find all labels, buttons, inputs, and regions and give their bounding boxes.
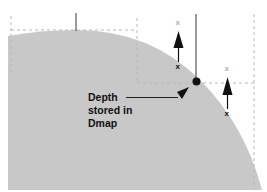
depth-arrow-1: x x <box>174 18 184 71</box>
depth-arrow-2: x x <box>223 64 233 118</box>
depth-map-diagram: x x x x Depth stored in Dmap <box>0 0 267 192</box>
sample-point-dot <box>193 78 201 86</box>
label-line-2: stored in <box>88 104 132 116</box>
faded-x-mark-2: x <box>225 64 230 73</box>
arrow-head-1-icon <box>174 31 184 48</box>
x-mark-1: x <box>176 62 181 71</box>
label-line-3: Dmap <box>88 117 117 129</box>
arrow-head-2-icon <box>223 77 233 95</box>
x-mark-2: x <box>225 109 230 118</box>
label-line-1: Depth <box>88 91 118 103</box>
faded-x-mark-1: x <box>176 18 181 27</box>
